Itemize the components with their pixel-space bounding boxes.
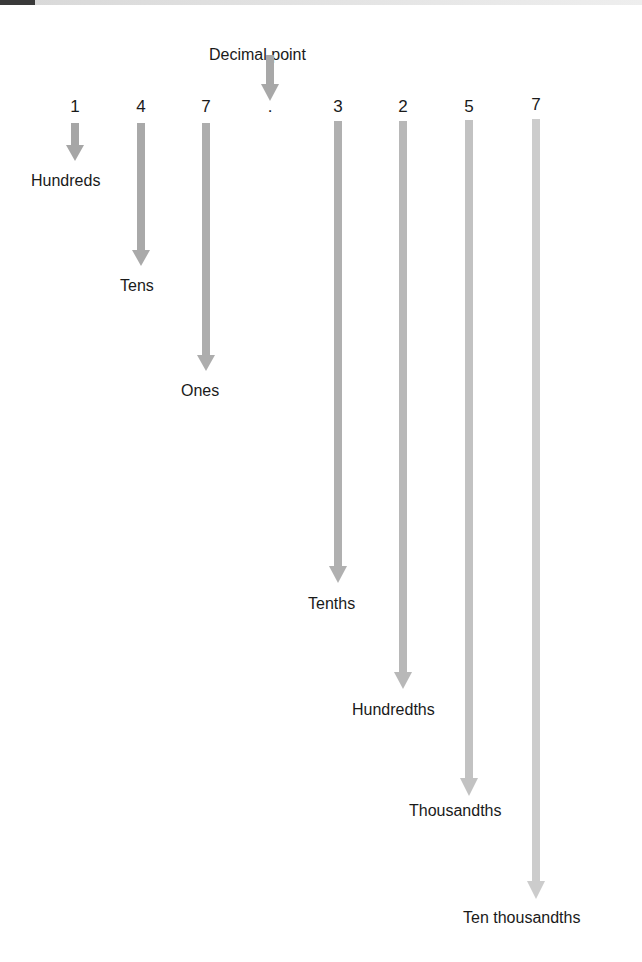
decimal-point-arrow-icon [261,55,279,101]
digit-tenths: 3 [333,97,342,117]
tens-arrow-icon [132,123,150,266]
label-hundreds: Hundreds [31,172,100,190]
place-value-arrows [0,0,642,962]
decimal-point: . [268,97,273,117]
label-ones: Ones [181,382,219,400]
digit-hundredths: 2 [398,97,407,117]
hundreds-arrow-icon [66,123,84,161]
digit-ten-thousandths: 7 [531,95,540,115]
label-hundredths: Hundredths [352,701,435,719]
tenths-arrow-icon [329,121,347,583]
digit-ones: 7 [201,97,210,117]
digit-hundreds: 1 [70,97,79,117]
ten-thousandths-arrow-icon [527,119,545,899]
hundredths-arrow-icon [394,121,412,689]
label-ten-thousandths: Ten thousandths [463,909,580,927]
ones-arrow-icon [197,123,215,371]
digit-tens: 4 [136,97,145,117]
label-tenths: Tenths [308,595,355,613]
thousandths-arrow-icon [460,120,478,796]
label-thousandths: Thousandths [409,802,502,820]
digit-thousandths: 5 [464,97,473,117]
label-tens: Tens [120,277,154,295]
